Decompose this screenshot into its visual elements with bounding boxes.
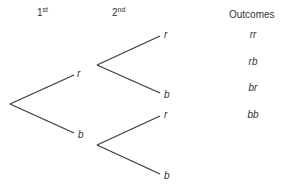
outcome-bb: bb [233, 109, 273, 120]
header-first: 1st [37, 6, 48, 18]
header-outcomes: Outcomes [229, 9, 275, 20]
header-second: 2nd [112, 6, 125, 18]
branch-r-r [97, 36, 160, 65]
branch-b-b [97, 145, 160, 174]
outcome-rb: rb [233, 56, 273, 67]
branch-r-b [97, 65, 160, 93]
branch-root-r [10, 75, 74, 104]
branch-b-r [97, 116, 160, 145]
outcome-rr: rr [233, 29, 273, 40]
node-label-first-r: r [77, 68, 80, 79]
node-label-bb: b [164, 170, 170, 181]
branch-root-b [10, 104, 74, 133]
outcome-br: br [233, 82, 273, 93]
node-label-br: r [164, 109, 167, 120]
node-label-first-b: b [78, 129, 84, 140]
node-label-rb: b [164, 89, 170, 100]
node-label-rr: r [164, 29, 167, 40]
